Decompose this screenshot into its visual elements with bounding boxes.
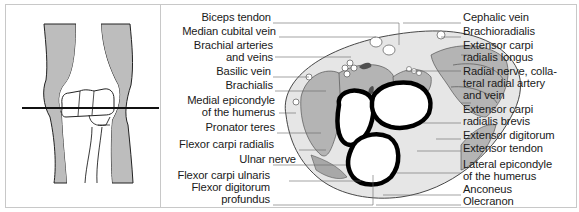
label-extensor-digitorum: Extensor digitorum: [463, 129, 554, 141]
label-olecranon: Olecranon: [463, 195, 514, 207]
label-pronator-teres: Pronator teres: [206, 121, 276, 133]
label-ecrb-line1: Extensor carpi: [463, 103, 533, 115]
label-radial-nerve-line2: teral radial artery: [463, 77, 545, 89]
label-medial-epicondyle-line2: of the humerus: [202, 106, 275, 118]
label-flexor-carpi-ulnaris: Flexor carpi ulnaris: [177, 169, 270, 181]
label-median-cubital-vein: Median cubital vein: [182, 25, 276, 37]
label-lateral-epicondyle-line2: of the humerus: [463, 170, 536, 182]
label-radial-nerve-line3: and vein: [463, 89, 505, 101]
label-brachialis: Brachialis: [226, 79, 274, 91]
label-brachial-arteries-line2: and veins: [226, 51, 273, 63]
elbow-sketch-panel: [6, 5, 159, 207]
label-basilic-vein: Basilic vein: [216, 65, 271, 77]
label-cephalic-vein: Cephalic vein: [463, 11, 529, 23]
label-biceps-tendon: Biceps tendon: [201, 11, 271, 23]
label-radial-nerve-line1: Radial nerve, colla-: [463, 65, 557, 77]
label-brachioradialis: Brachioradialis: [463, 25, 535, 37]
cross-section-panel: Biceps tendon Median cubital vein Brachi…: [161, 5, 576, 207]
label-lateral-epicondyle-line1: Lateral epicondyle: [463, 158, 552, 170]
label-ecrl-line2: radialis longus: [463, 51, 533, 63]
label-brachial-arteries-line1: Brachial arteries: [194, 39, 273, 51]
label-flexor-digitorum-line2: profundus: [221, 193, 270, 205]
label-ecrl-line1: Extensor carpi: [463, 39, 533, 51]
label-ulnar-nerve: Ulnar nerve: [239, 153, 296, 165]
label-extensor-tendon: Extensor tendon: [463, 142, 543, 154]
label-medial-epicondyle-line1: Medial epicondyle: [187, 94, 275, 106]
label-flexor-carpi-radialis: Flexor carpi radialis: [179, 138, 274, 150]
label-anconeus: Anconeus: [463, 183, 512, 195]
elbow-anterior-sketch: [6, 5, 159, 207]
label-flexor-digitorum-line1: Flexor digitorum: [191, 181, 270, 193]
label-ecrb-line2: radialis brevis: [463, 115, 530, 127]
